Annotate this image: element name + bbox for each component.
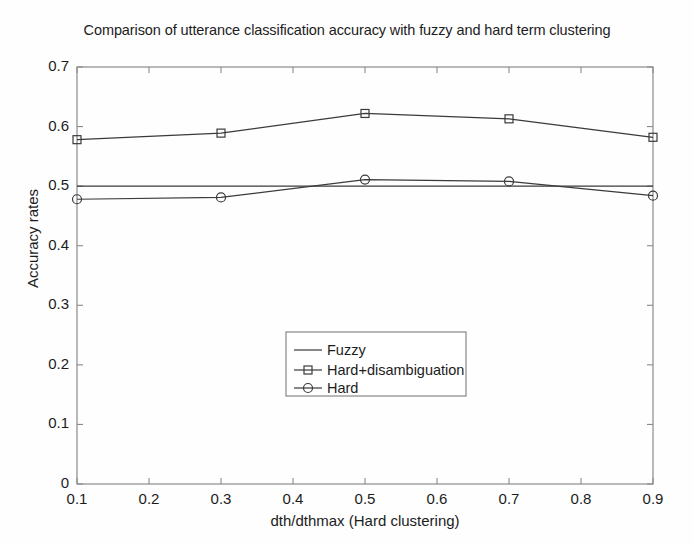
figure-canvas: Comparison of utterance classification a…: [0, 0, 694, 546]
x-tick-label: 0.8: [558, 490, 604, 507]
x-tick-label: 0.7: [486, 490, 532, 507]
x-tick-label: 0.9: [630, 490, 676, 507]
x-tick-label: 0.6: [414, 490, 460, 507]
y-tick-label: 0.5: [23, 176, 69, 193]
plot-area: FuzzyHard+disambiguationHard: [0, 0, 694, 546]
x-tick-label: 0.3: [198, 490, 244, 507]
y-tick-label: 0: [23, 474, 69, 491]
legend-item-label-0: Fuzzy: [327, 342, 366, 358]
legend-item-label-1: Hard+disambiguation: [327, 362, 464, 378]
x-tick-label: 0.5: [342, 490, 388, 507]
data-series-group: [73, 109, 658, 203]
series-line-2: [77, 180, 653, 200]
y-tick-label: 0.1: [23, 414, 69, 431]
axis-ticks: [77, 67, 653, 484]
y-tick-label: 0.2: [23, 355, 69, 372]
x-tick-label: 0.4: [270, 490, 316, 507]
y-tick-label: 0.4: [23, 236, 69, 253]
x-tick-label: 0.1: [54, 490, 100, 507]
axes-frame: [77, 67, 653, 484]
x-axis-label: dth/dthmax (Hard clustering): [77, 512, 653, 529]
legend-item-label-2: Hard: [327, 380, 358, 396]
legend[interactable]: FuzzyHard+disambiguationHard: [286, 332, 466, 396]
y-tick-label: 0.3: [23, 295, 69, 312]
y-tick-label: 0.6: [23, 117, 69, 134]
y-tick-label: 0.7: [23, 57, 69, 74]
x-tick-label: 0.2: [126, 490, 172, 507]
